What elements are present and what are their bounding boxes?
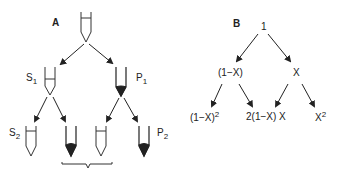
label-p1: P1 — [136, 73, 147, 86]
level2-right-sup: 2 — [322, 110, 326, 119]
level2-right-base: X — [315, 112, 322, 123]
panel-b-label: B — [233, 19, 240, 29]
s1-name: S — [26, 72, 33, 83]
s1-sub: 1 — [33, 77, 37, 86]
p1-name: P — [136, 72, 143, 83]
tube-s1 — [45, 67, 55, 95]
level2-left-base: (1−X) — [190, 112, 215, 123]
tube-s2 — [26, 126, 36, 156]
level2-left: (1−X)2 — [190, 111, 219, 123]
tube-p2 — [139, 126, 149, 156]
p2-name: P — [157, 127, 164, 138]
panel-a-arrows — [35, 44, 137, 121]
level2-left-sup: 2 — [215, 110, 219, 119]
s2-name: S — [9, 127, 16, 138]
tube-supernatant-middle-right — [96, 126, 106, 156]
root-value: 1 — [261, 22, 267, 32]
label-s2: S2 — [9, 128, 20, 141]
level2-right: X2 — [315, 111, 326, 123]
panel-a-label: A — [52, 18, 59, 28]
level1-left: (1−X) — [218, 68, 243, 78]
s2-sub: 2 — [16, 132, 20, 141]
level2-middle: 2(1−X) X — [246, 112, 286, 122]
level1-right: X — [293, 68, 300, 78]
brace — [62, 162, 112, 168]
label-s1: S1 — [26, 73, 37, 86]
tube-p1 — [116, 67, 126, 96]
p2-sub: 2 — [164, 132, 168, 141]
tube-root — [81, 12, 91, 42]
tube-pellet-middle-left — [66, 126, 76, 156]
label-p2: P2 — [157, 128, 168, 141]
p1-sub: 1 — [143, 77, 147, 86]
